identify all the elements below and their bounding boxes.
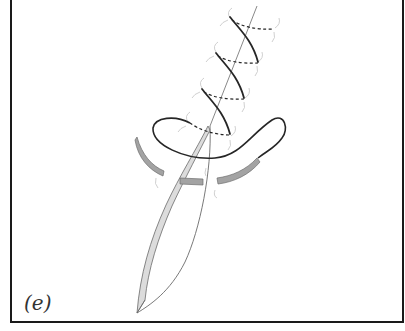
panel-label: (e) bbox=[24, 291, 51, 315]
tissue-fibers bbox=[155, 8, 279, 198]
center-arrow bbox=[180, 178, 203, 185]
right-arrow bbox=[217, 158, 260, 184]
suture-loop bbox=[153, 118, 285, 158]
tension-arrows bbox=[135, 137, 260, 185]
scalpel-blade bbox=[137, 126, 210, 313]
helical-suture-back bbox=[190, 20, 274, 135]
suture-diagram bbox=[0, 0, 405, 331]
